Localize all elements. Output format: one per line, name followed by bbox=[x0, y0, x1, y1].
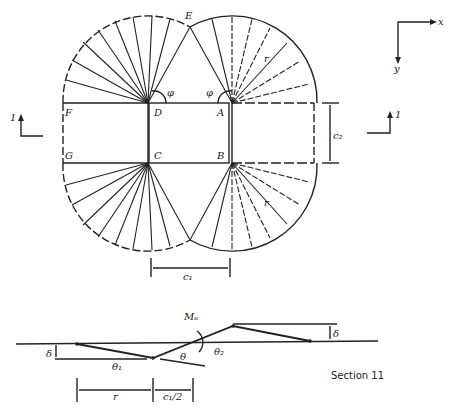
theta2-label: θ₂ bbox=[214, 346, 224, 357]
angle-phi-right: φ bbox=[206, 87, 213, 98]
dim-r: r bbox=[113, 391, 119, 402]
point-B: B bbox=[216, 150, 224, 161]
axis-y-label: y bbox=[393, 63, 400, 74]
yield-line-diagram: E D A C B F G φ φ r r c₂ c₁ 1 1 x y Mᵤ δ… bbox=[0, 0, 461, 413]
point-G: G bbox=[65, 150, 73, 161]
delta-left: δ bbox=[46, 348, 52, 359]
point-A: A bbox=[216, 107, 224, 118]
point-D: D bbox=[153, 107, 162, 118]
moment-label: Mᵤ bbox=[183, 311, 198, 322]
point-F: F bbox=[64, 107, 73, 118]
radius-label-bottom: r bbox=[264, 197, 270, 208]
theta-label: θ bbox=[180, 351, 186, 362]
dim-c1: c₁ bbox=[183, 271, 193, 282]
axis-x-label: x bbox=[438, 16, 444, 27]
delta-right: δ bbox=[333, 328, 339, 339]
section-caption: Section 11 bbox=[331, 370, 384, 381]
theta1-label: θ₁ bbox=[112, 361, 122, 372]
section-mark-left: 1 bbox=[10, 112, 16, 123]
point-C: C bbox=[154, 150, 162, 161]
dim-c2: c₂ bbox=[333, 130, 343, 141]
angle-phi-left: φ bbox=[167, 87, 174, 98]
dim-half-c1: c₁/2 bbox=[163, 391, 182, 402]
left-bottom-arc bbox=[63, 163, 190, 251]
point-E: E bbox=[184, 10, 193, 21]
section-mark-right: 1 bbox=[395, 109, 401, 120]
